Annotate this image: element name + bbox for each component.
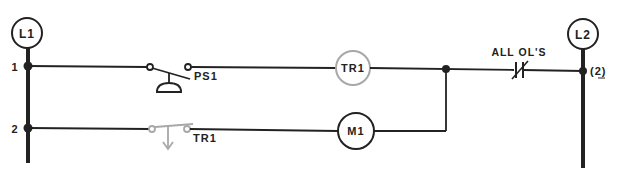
rung-1-number: 1	[11, 61, 18, 73]
rung-2-wire	[28, 128, 149, 129]
tr1-contact-right-terminal	[184, 126, 190, 132]
ps1-label: PS1	[194, 70, 218, 82]
ladder-diagram: L1 L2 1 PS1 TR1	[0, 0, 620, 178]
rung-2-number: 2	[11, 123, 18, 135]
rail-l2-label: L2	[575, 28, 591, 42]
ps1-pressure-icon	[157, 83, 181, 92]
tr1-coil: TR1	[336, 51, 370, 85]
rung-1-right-junction	[579, 67, 587, 75]
overload-contacts: ALL OL'S	[491, 46, 546, 79]
rung-1-wire	[523, 70, 583, 71]
tr1-contact-label: TR1	[193, 132, 217, 144]
m1-coil-label: M1	[347, 125, 364, 137]
rung-1-wire	[28, 66, 147, 67]
ps1-lever	[152, 68, 190, 79]
ps1-right-terminal	[185, 64, 191, 70]
rung-1: 1 PS1 TR1 ALL OL'S (2)	[11, 46, 606, 92]
ps1-left-terminal	[147, 64, 153, 70]
tr1-timed-contact: TR1	[149, 124, 217, 149]
rung-2-wire	[190, 129, 338, 131]
rung-1-wire	[191, 67, 336, 68]
rail-l1-label: L1	[19, 27, 35, 41]
rung-2: 2 TR1 M1	[11, 69, 446, 149]
tr1-coil-label: TR1	[341, 62, 365, 74]
ol-contact-label: ALL OL'S	[491, 46, 546, 58]
tr1-contact-left-terminal	[149, 126, 155, 132]
rung-1-right-marker: (2)	[590, 65, 606, 77]
rail-l1: L1	[12, 18, 42, 163]
rail-l2: L2	[568, 19, 598, 168]
m1-coil: M1	[338, 113, 374, 149]
ps1-pushbutton: PS1	[147, 64, 218, 92]
